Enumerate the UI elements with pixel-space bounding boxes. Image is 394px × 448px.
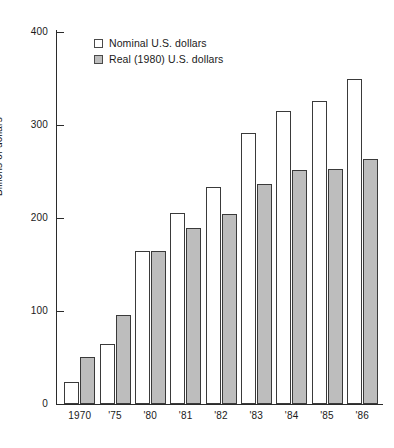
filled-square-swatch-icon xyxy=(94,55,103,64)
legend-label-real: Real (1980) U.S. dollars xyxy=(109,54,223,65)
bar-real-86 xyxy=(363,159,378,404)
bar-real-81 xyxy=(186,228,201,404)
x-tick-label: '86 xyxy=(337,410,387,421)
bar-nominal-81 xyxy=(170,213,185,404)
bar-real-75 xyxy=(116,315,131,404)
legend-label-nominal: Nominal U.S. dollars xyxy=(109,38,207,49)
bar-nominal-80 xyxy=(135,251,150,404)
bar-nominal-85 xyxy=(312,101,327,404)
bar-nominal-84 xyxy=(276,111,291,404)
bar-nominal-75 xyxy=(100,344,115,404)
bar-real-1970 xyxy=(80,357,95,404)
open-square-swatch-icon xyxy=(94,39,103,48)
bar-real-80 xyxy=(151,251,166,404)
legend-item-real: Real (1980) U.S. dollars xyxy=(94,52,223,66)
bar-nominal-83 xyxy=(241,133,256,404)
bar-nominal-82 xyxy=(206,187,221,404)
bar-real-82 xyxy=(222,214,237,404)
bar-nominal-1970 xyxy=(64,382,79,404)
bar-real-84 xyxy=(292,170,307,404)
bar-chart-figure: Billions of dollars 0100200300400 1970'7… xyxy=(0,0,394,448)
bar-real-85 xyxy=(328,169,343,404)
legend-item-nominal: Nominal U.S. dollars xyxy=(94,36,223,50)
chart-legend: Nominal U.S. dollars Real (1980) U.S. do… xyxy=(94,36,223,68)
bar-real-83 xyxy=(257,184,272,404)
bar-nominal-86 xyxy=(347,79,362,405)
